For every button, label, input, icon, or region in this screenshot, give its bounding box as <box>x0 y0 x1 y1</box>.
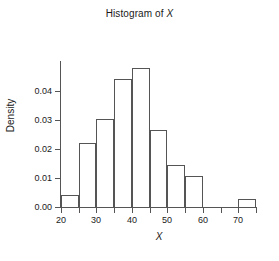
x-axis-tick-label: 60 <box>188 215 218 225</box>
y-axis-tick-label: 0.01 <box>24 173 52 183</box>
x-axis-tick <box>203 208 204 213</box>
histogram-bar <box>167 165 185 207</box>
x-axis-label: X <box>61 231 257 242</box>
histogram-bar <box>114 79 132 207</box>
x-axis-tick <box>238 208 239 213</box>
x-axis-tick-label: 30 <box>81 215 111 225</box>
x-axis-tick <box>167 208 168 213</box>
y-axis-tick <box>55 91 60 92</box>
x-axis-tick-label: 20 <box>46 215 76 225</box>
x-axis-line <box>61 207 257 208</box>
histogram-bar <box>61 195 79 207</box>
x-axis-tick-label: 70 <box>223 215 253 225</box>
x-axis-tick <box>61 208 62 213</box>
chart-title-text: Histogram of <box>106 8 167 19</box>
x-axis-minor-tick <box>185 208 186 213</box>
x-axis-tick-label: 40 <box>117 215 147 225</box>
histogram-bar <box>96 119 114 207</box>
y-axis-label: Density <box>5 86 16 146</box>
y-axis-tick-label: 0.02 <box>24 144 52 154</box>
x-axis-tick-label: 50 <box>152 215 182 225</box>
histogram-figure: Histogram of X 0.000.010.020.030.04 2030… <box>0 0 279 261</box>
y-axis-tick-label: 0.04 <box>24 86 52 96</box>
chart-title: Histogram of X <box>0 8 279 19</box>
plot-area <box>61 62 256 207</box>
y-axis-tick <box>55 120 60 121</box>
chart-title-variable: X <box>166 8 173 19</box>
x-axis-tick <box>132 208 133 213</box>
x-axis-minor-tick <box>221 208 222 213</box>
histogram-bar <box>238 199 256 207</box>
y-axis-tick-label: 0.00 <box>24 202 52 212</box>
y-axis-tick <box>55 178 60 179</box>
histogram-bar <box>79 143 97 207</box>
y-axis-tick <box>55 149 60 150</box>
histogram-bar <box>132 68 150 207</box>
x-axis-minor-tick <box>150 208 151 213</box>
x-axis-minor-tick <box>114 208 115 213</box>
x-axis-minor-tick <box>79 208 80 213</box>
y-axis-tick-label: 0.03 <box>24 115 52 125</box>
histogram-bar <box>185 176 203 207</box>
histogram-bar <box>150 130 168 207</box>
x-axis-minor-tick <box>256 208 257 213</box>
y-axis-tick <box>55 207 60 208</box>
x-axis-tick <box>96 208 97 213</box>
